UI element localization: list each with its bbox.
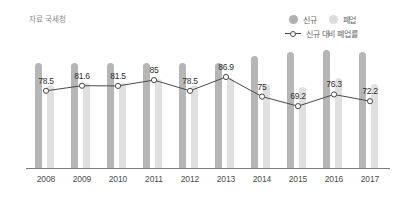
legend-label-closed: 폐업 (343, 14, 357, 25)
bar-new (107, 63, 114, 168)
bar-closed (83, 83, 90, 168)
bar-new (323, 50, 330, 168)
bar-new (215, 63, 222, 168)
legend-row-bars: 신규 폐업 (285, 12, 407, 26)
bar-closed (191, 85, 198, 168)
closure-rate-chart: 자료 국세청 신규 폐업 신규 대비 폐업률 78.581.681.58578.… (0, 0, 417, 203)
bar-new (359, 52, 366, 168)
chart-legend: 신규 폐업 신규 대비 폐업률 (285, 12, 407, 40)
x-axis-tick-label: 2016 (325, 174, 344, 184)
bar-closed (263, 84, 270, 168)
bar-new (71, 63, 78, 168)
bar-group (172, 46, 208, 168)
legend-label-new: 신규 (303, 14, 317, 25)
bar-group (316, 46, 352, 168)
bar-group (136, 46, 172, 168)
bar-group (64, 46, 100, 168)
bar-group (352, 46, 388, 168)
legend-dot-icon-new (289, 15, 298, 24)
x-axis-tick-label: 2014 (253, 174, 272, 184)
x-axis-tick-label: 2017 (361, 174, 380, 184)
bar-closed (47, 85, 54, 168)
legend-row-line: 신규 대비 폐업률 (285, 26, 407, 40)
bar-group (244, 46, 280, 168)
legend-label-rate: 신규 대비 폐업률 (306, 28, 358, 39)
bar-group (28, 46, 64, 168)
legend-item-rate[interactable]: 신규 대비 폐업률 (285, 28, 358, 39)
bar-closed (227, 78, 234, 168)
x-axis-tick-label: 2012 (181, 174, 200, 184)
x-axis-tick-label: 2008 (37, 174, 56, 184)
bars-layer (28, 46, 388, 168)
bar-closed (155, 79, 162, 168)
source-note: 자료 국세청 (29, 13, 65, 24)
legend-dot-icon-closed (329, 15, 338, 24)
legend-line-marker-icon (285, 29, 301, 38)
x-axis-tick-label: 2015 (289, 174, 308, 184)
x-axis-line (26, 168, 390, 169)
bar-new (35, 63, 42, 168)
bar-new (143, 63, 150, 168)
legend-item-closed[interactable]: 폐업 (329, 14, 357, 25)
bar-new (179, 63, 186, 168)
legend-item-new[interactable]: 신규 (289, 14, 317, 25)
bar-group (208, 46, 244, 168)
bar-closed (371, 84, 378, 168)
bar-group (280, 46, 316, 168)
bar-closed (335, 78, 342, 168)
bar-new (287, 52, 294, 168)
bar-group (100, 46, 136, 168)
bar-new (251, 56, 258, 168)
bar-closed (119, 83, 126, 168)
x-axis-tick-label: 2013 (217, 174, 236, 184)
x-axis-tick-label: 2009 (73, 174, 92, 184)
x-axis-tick-label: 2011 (145, 174, 163, 184)
x-axis-labels: 2008200920102011201220132014201520162017 (28, 174, 388, 190)
bar-closed (299, 87, 306, 168)
x-axis-tick-label: 2010 (109, 174, 128, 184)
